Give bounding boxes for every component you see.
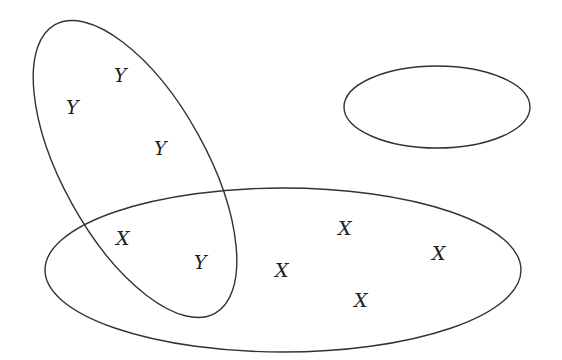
element-label: X (273, 259, 290, 281)
element-label: Y (154, 137, 169, 159)
element-label: X (336, 217, 353, 239)
tilted-set-ellipse (0, 0, 278, 348)
element-label: X (352, 289, 369, 311)
element-label: X (114, 227, 131, 249)
element-label: Y (194, 251, 209, 273)
element-label: X (430, 242, 447, 264)
element-label: Y (114, 64, 129, 86)
element-label: Y (66, 96, 81, 118)
venn-diagram: Y Y Y X Y X X X X (0, 0, 562, 360)
small-empty-set-ellipse (344, 66, 530, 148)
